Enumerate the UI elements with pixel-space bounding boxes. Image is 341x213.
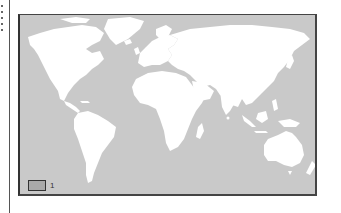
side-marks — [1, 5, 5, 35]
arctic-islands — [60, 17, 90, 23]
british-isles — [134, 47, 140, 55]
sumatra — [242, 115, 256, 127]
legend-swatch-1 — [28, 180, 46, 191]
legend-label-1: 1 — [50, 181, 54, 190]
north-america — [28, 25, 104, 101]
philippines — [272, 99, 278, 111]
australia — [264, 131, 304, 167]
side-divider-line — [9, 0, 10, 213]
map-legend: 1 — [28, 180, 54, 191]
central-america — [64, 101, 80, 113]
borneo — [256, 111, 268, 123]
java — [254, 131, 268, 133]
caribbean — [80, 101, 90, 103]
new-zealand — [306, 161, 316, 175]
madagascar — [196, 123, 204, 139]
new-guinea — [278, 119, 300, 127]
greenland — [104, 17, 144, 45]
tasmania — [288, 171, 292, 175]
south-america — [74, 111, 116, 183]
world-map-landmasses — [20, 15, 317, 196]
world-map: 1 — [18, 14, 317, 196]
sri-lanka — [227, 117, 230, 120]
